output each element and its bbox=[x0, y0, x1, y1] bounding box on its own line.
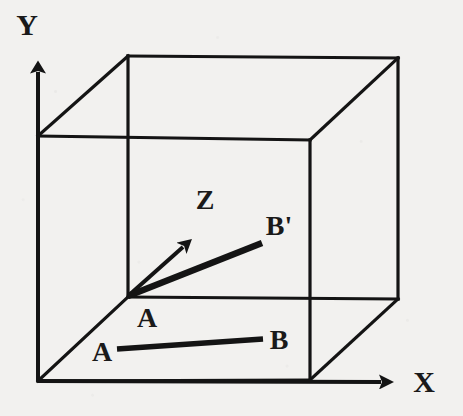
cube-wireframe bbox=[38, 56, 398, 381]
figure-canvas: Y X Z A B' A B bbox=[0, 0, 463, 416]
segment-a-b bbox=[117, 339, 263, 349]
coordinate-axes bbox=[38, 72, 381, 382]
x-axis-line bbox=[38, 381, 381, 382]
point-label-a-lower: A bbox=[92, 336, 113, 367]
point-label-b-prime: B' bbox=[266, 210, 292, 241]
cube-depth-edges bbox=[38, 56, 398, 381]
z-axis-arrow bbox=[128, 247, 183, 296]
segment-a-b-prime bbox=[128, 243, 262, 296]
cube-edge-depth-bottom-left bbox=[38, 297, 128, 381]
cube-edge-back-top bbox=[128, 56, 398, 58]
point-label-a-upper: A bbox=[137, 302, 158, 333]
segment-a-b-prime-line bbox=[128, 243, 262, 296]
cube-edge-depth-bottom-right bbox=[310, 299, 398, 380]
point-label-b: B bbox=[270, 324, 289, 355]
cube-projection-diagram: Y X Z A B' A B bbox=[0, 0, 463, 416]
cube-edge-depth-top-left bbox=[38, 56, 128, 136]
z-axis-line bbox=[128, 247, 183, 296]
cube-edge-back-bottom bbox=[128, 297, 398, 299]
z-axis-label: Z bbox=[196, 184, 215, 215]
x-axis-label: X bbox=[413, 365, 435, 398]
y-axis-label: Y bbox=[16, 8, 38, 41]
cube-edge-depth-top-right bbox=[310, 58, 398, 140]
segment-a-b-line bbox=[117, 339, 263, 349]
cube-edge-front-top bbox=[38, 136, 310, 140]
